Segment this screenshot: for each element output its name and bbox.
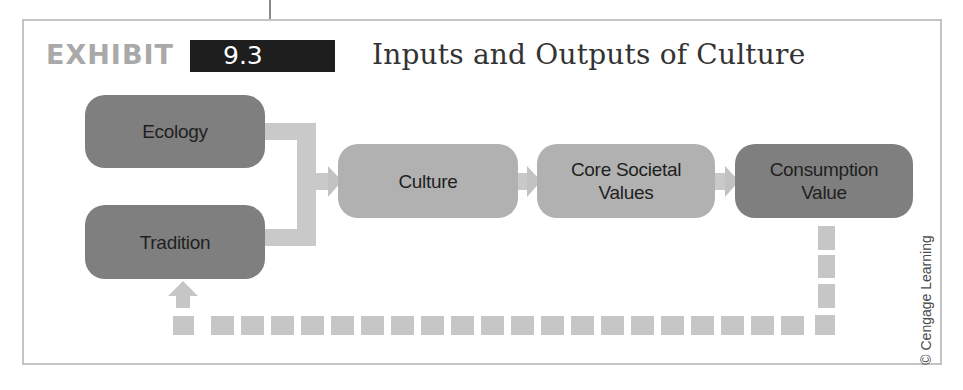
node-core-label-line1: Core Societal (571, 158, 681, 181)
node-consumption-label-line1: Consumption (770, 158, 879, 181)
node-tradition: Tradition (85, 205, 265, 279)
copyright-notice: © Cengage Learning (918, 235, 934, 364)
node-consumption-label-line2: Value (801, 181, 847, 204)
node-tradition-label: Tradition (140, 231, 211, 254)
node-ecology-label: Ecology (142, 120, 208, 143)
node-culture: Culture (338, 144, 518, 218)
feedback-arrow-shaft (176, 295, 190, 308)
node-culture-label: Culture (398, 170, 457, 193)
node-core-societal-values: Core Societal Values (537, 144, 715, 218)
arrowhead-to-tradition-icon (168, 281, 198, 296)
node-core-label-line2: Values (599, 181, 654, 204)
node-consumption-value: Consumption Value (735, 144, 913, 218)
node-ecology: Ecology (85, 95, 265, 168)
